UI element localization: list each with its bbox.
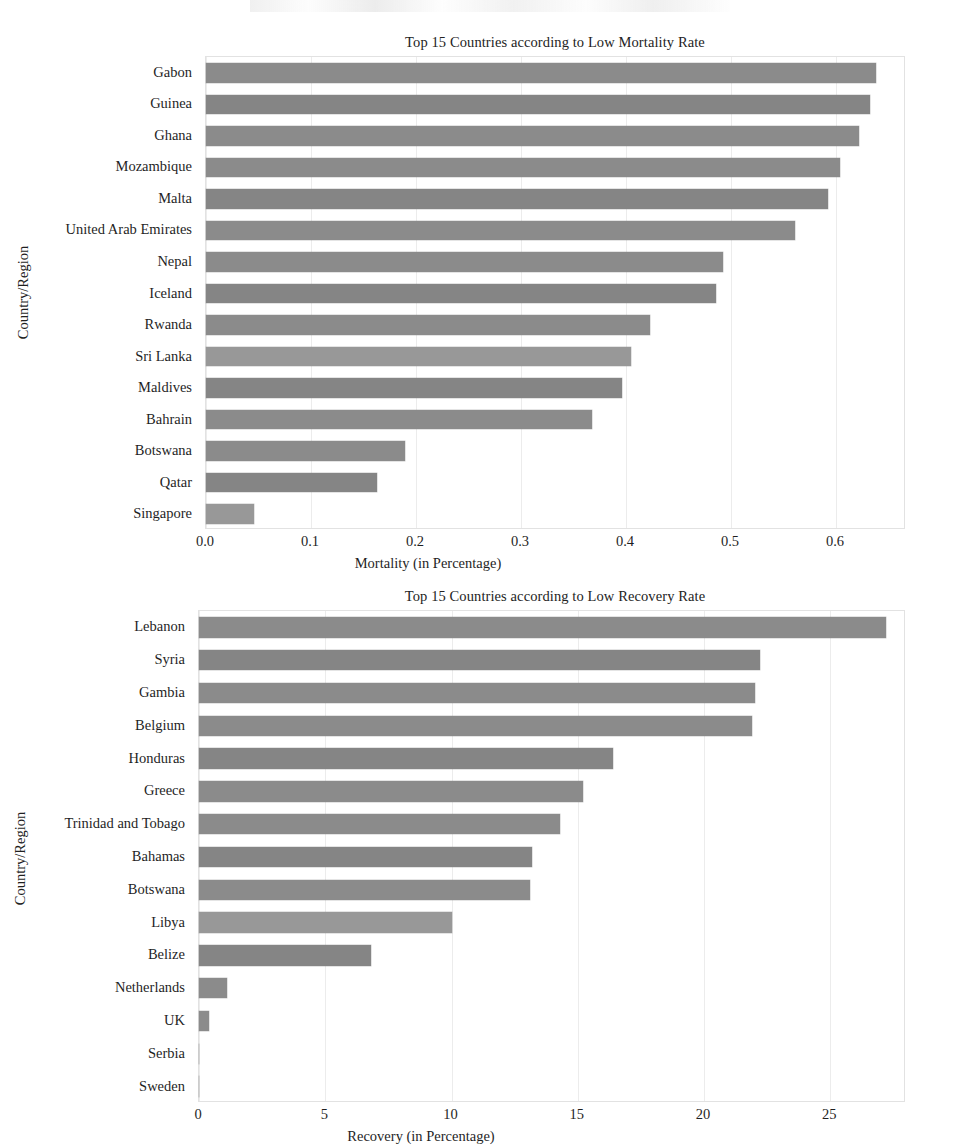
bar[interactable] (206, 441, 405, 461)
bar[interactable] (206, 473, 377, 493)
y-tick-label: Maldives (0, 379, 200, 396)
bar[interactable] (199, 748, 613, 768)
bar-row[interactable] (199, 1037, 904, 1070)
bar[interactable] (199, 978, 227, 998)
x-tick-label: 20 (696, 1106, 711, 1123)
bar-row[interactable] (206, 309, 904, 341)
bar-row[interactable] (206, 215, 904, 247)
y-tick-label: Bahamas (0, 848, 193, 865)
y-tick-label: Ghana (0, 126, 200, 143)
bar-row[interactable] (206, 89, 904, 121)
y-tick-label: Greece (0, 782, 193, 799)
bar-row[interactable] (206, 467, 904, 499)
bar[interactable] (199, 847, 532, 867)
y-tick-label: Malta (0, 189, 200, 206)
x-tick-label: 0.5 (721, 533, 739, 550)
x-tick-labels-recovery: 0510152025 (0, 1102, 966, 1128)
bar-row[interactable] (206, 404, 904, 436)
x-tick-label: 10 (443, 1106, 458, 1123)
bar-row[interactable] (206, 498, 904, 530)
bar[interactable] (206, 284, 716, 304)
bar[interactable] (206, 410, 592, 430)
bar[interactable] (206, 315, 650, 335)
x-tick-label: 15 (570, 1106, 585, 1123)
bar-series-mortality (206, 57, 904, 528)
bar[interactable] (199, 945, 371, 965)
y-tick-label: Bahrain (0, 410, 200, 427)
bar[interactable] (199, 650, 760, 670)
bar[interactable] (199, 683, 755, 703)
bar-row[interactable] (199, 972, 904, 1005)
y-tick-label: Guinea (0, 95, 200, 112)
bar[interactable] (206, 378, 622, 398)
bar-row[interactable] (199, 1070, 904, 1103)
bar[interactable] (206, 221, 795, 241)
x-tick-label: 25 (822, 1106, 837, 1123)
chart-title-recovery: Top 15 Countries according to Low Recove… (205, 588, 905, 605)
bar-row[interactable] (206, 57, 904, 89)
y-tick-label: Netherlands (0, 979, 193, 996)
bar-row[interactable] (199, 677, 904, 710)
bar[interactable] (206, 252, 723, 272)
bar[interactable] (206, 158, 840, 178)
bar[interactable] (199, 716, 752, 736)
chart-title-mortality: Top 15 Countries according to Low Mortal… (205, 34, 905, 51)
x-tick-label: 5 (321, 1106, 328, 1123)
bar-row[interactable] (206, 435, 904, 467)
y-tick-label: Botswana (0, 880, 193, 897)
x-tick-label: 0.6 (826, 533, 844, 550)
bar[interactable] (199, 814, 560, 834)
bar[interactable] (206, 347, 631, 367)
y-tick-label: Sweden (0, 1077, 193, 1094)
bar-row[interactable] (206, 372, 904, 404)
y-tick-label: Sri Lanka (0, 347, 200, 364)
bar-row[interactable] (199, 841, 904, 874)
bar[interactable] (199, 617, 886, 637)
y-tick-label: Gabon (0, 63, 200, 80)
bar[interactable] (199, 880, 530, 900)
x-axis-label-recovery: Recovery (in Percentage) (0, 1128, 904, 1145)
y-tick-label: Trinidad and Tobago (0, 815, 193, 832)
bar-row[interactable] (199, 939, 904, 972)
bar[interactable] (199, 781, 583, 801)
bar[interactable] (206, 189, 828, 209)
bar-row[interactable] (199, 709, 904, 742)
bar[interactable] (206, 126, 859, 146)
scan-artifact-top (250, 0, 730, 12)
bar-row[interactable] (206, 278, 904, 310)
y-tick-label: Belgium (0, 716, 193, 733)
bar-row[interactable] (206, 152, 904, 184)
bar[interactable] (199, 1011, 209, 1031)
chart-mortality: Top 15 Countries according to Low Mortal… (0, 34, 966, 574)
bar-row[interactable] (206, 183, 904, 215)
bar-row[interactable] (199, 775, 904, 808)
bar-row[interactable] (206, 246, 904, 278)
y-tick-label: Rwanda (0, 316, 200, 333)
x-tick-label: 0.0 (196, 533, 214, 550)
bar-row[interactable] (199, 742, 904, 775)
bar-row[interactable] (199, 808, 904, 841)
bar[interactable] (206, 504, 254, 524)
x-axis-label-mortality: Mortality (in Percentage) (0, 555, 911, 572)
bar-row[interactable] (199, 873, 904, 906)
bar-row[interactable] (199, 1005, 904, 1038)
x-tick-labels-mortality: 0.00.10.20.30.40.50.6 (0, 529, 966, 555)
y-tick-label: Botswana (0, 442, 200, 459)
bar-row[interactable] (199, 644, 904, 677)
bar-series-recovery (199, 611, 904, 1101)
bar-row[interactable] (206, 341, 904, 373)
x-tick-label: 0.3 (511, 533, 529, 550)
y-tick-label: Mozambique (0, 158, 200, 175)
bar-row[interactable] (199, 906, 904, 939)
bar[interactable] (206, 95, 870, 115)
bar[interactable] (206, 63, 876, 83)
bar-row[interactable] (206, 120, 904, 152)
chart-recovery: Top 15 Countries according to Low Recove… (0, 588, 966, 1141)
y-tick-label: Belize (0, 946, 193, 963)
y-tick-label: Syria (0, 651, 193, 668)
bar-row[interactable] (199, 611, 904, 644)
y-tick-labels-mortality: GabonGuineaGhanaMozambiqueMaltaUnited Ar… (0, 56, 200, 529)
y-tick-label: Singapore (0, 505, 200, 522)
y-tick-label: United Arab Emirates (0, 221, 200, 238)
bar[interactable] (199, 912, 452, 932)
